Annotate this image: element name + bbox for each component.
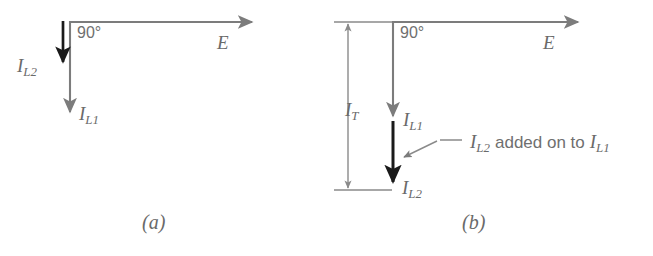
il2-b-sub: L2 — [408, 186, 422, 201]
current-label-il2-a: IL2 — [17, 56, 37, 75]
annot-lead-sub: L2 — [476, 140, 490, 155]
phasor-figure: 90° E IL2 IL1 (a) 90° E IT IL1 IL2 IL2 a… — [0, 0, 653, 256]
voltage-label-e-b: E — [543, 33, 555, 52]
annotation-added-on-to: IL2 added on to IL1 — [470, 131, 610, 153]
caption-b: (b) — [462, 212, 485, 232]
caption-a: (a) — [142, 212, 165, 232]
angle-label-a: 90° — [77, 25, 101, 41]
annotation-middle-text: added on to — [495, 133, 585, 153]
annotation-tail-symbol: IL1 — [590, 131, 610, 153]
il2-a-sub: L2 — [23, 64, 37, 79]
annotation-leader — [404, 140, 462, 157]
current-label-il1-b: IL1 — [403, 110, 423, 129]
il1-a-sub: L1 — [85, 112, 99, 127]
panel-b-vectors — [334, 21, 578, 190]
il1-b-sub: L1 — [409, 118, 423, 133]
annotation-lead-symbol: IL2 — [470, 131, 490, 153]
current-label-it: IT — [345, 100, 359, 119]
current-label-il1-a: IL1 — [79, 104, 99, 123]
current-label-il2-b: IL2 — [402, 178, 422, 197]
annot-tail-sub: L1 — [596, 140, 610, 155]
voltage-label-e-a: E — [217, 33, 229, 52]
it-sub: T — [351, 108, 358, 123]
angle-label-b: 90° — [400, 25, 424, 41]
